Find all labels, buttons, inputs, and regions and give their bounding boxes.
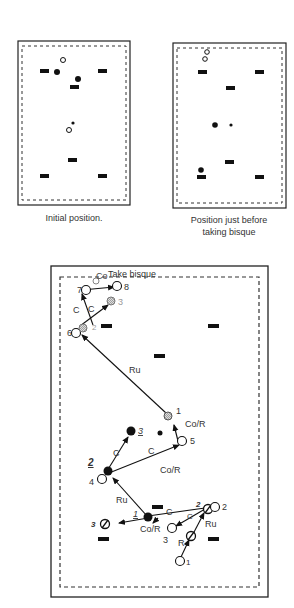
lawn-before-bisque (173, 43, 286, 208)
peg (158, 431, 163, 436)
ball-black (54, 69, 60, 75)
caption-initial-position: Initial position. (14, 213, 134, 224)
ball-number: 5 (190, 436, 195, 446)
turn-number: 2 (195, 500, 201, 509)
ball-black (144, 513, 153, 522)
turn-number: 2 (92, 323, 97, 332)
ball-hatched (79, 324, 87, 332)
ball-number: 7 (77, 285, 82, 295)
caption-before-bisque-line1: Position just before (168, 215, 290, 226)
ball-position-7 (82, 286, 91, 295)
stroke-label: C (187, 512, 193, 521)
hoop (197, 175, 206, 179)
turn-number: 1 (133, 509, 138, 519)
hoop (98, 69, 107, 73)
hoop (198, 70, 207, 74)
peg (229, 123, 232, 126)
stroke-label: Ru (205, 519, 217, 529)
ball-number: 3 (163, 535, 168, 545)
hoop (225, 160, 234, 164)
ball-position-2 (211, 503, 220, 512)
caption-before-bisque-line2: taking bisque (168, 227, 290, 238)
stroke-arrow (153, 518, 158, 523)
stroke-label: R (178, 538, 185, 548)
lawn-initial-position (18, 41, 130, 205)
hoop (255, 175, 264, 179)
ball-white (61, 58, 66, 63)
stroke-label: Ru (116, 495, 128, 505)
hoop (152, 505, 163, 509)
ball-number: 6 (67, 328, 72, 338)
hoop (70, 85, 79, 89)
turn-number: 3 (138, 426, 143, 436)
label-take-bisque: Take bisque (108, 269, 156, 279)
stroke-label: C (148, 446, 155, 456)
ball-hatched (164, 412, 172, 420)
ball-position-8 (113, 282, 122, 291)
hoop (208, 537, 219, 541)
hoop (255, 70, 264, 74)
stroke-label: C (73, 305, 80, 315)
ball-position-1 (176, 557, 185, 566)
turn-number: 2 (87, 457, 94, 468)
stroke-label: C (113, 448, 120, 458)
hoop (208, 324, 219, 328)
stroke-label: C (88, 304, 95, 314)
ball-number: 8 (124, 282, 129, 292)
ball-number: 1 (186, 558, 191, 567)
ball-position-4 (98, 475, 107, 484)
stroke-arrow (174, 425, 178, 441)
turn-number: 1 (176, 406, 181, 416)
ball-black (198, 167, 204, 173)
label-co: Co (96, 271, 108, 281)
stroke-label: Ru (129, 365, 141, 375)
ball-black (127, 427, 136, 436)
hoop (101, 324, 112, 328)
hoop (68, 158, 77, 162)
croquet-diagrams: Co Take bisque 8 7 6 3 2 C C Ru 1 Co/R 5… (0, 0, 294, 608)
stroke-label: Co/R (140, 524, 161, 534)
peg (71, 121, 74, 124)
lawn-break-diagram: Co Take bisque 8 7 6 3 2 C C Ru 1 Co/R 5… (51, 266, 268, 597)
hoop (154, 354, 165, 358)
turn-number: 3 (91, 520, 96, 529)
ball-white (67, 128, 72, 133)
ball-hatched (107, 297, 115, 305)
stroke-arrow (193, 513, 204, 534)
ball-white (205, 50, 210, 55)
ball-black (75, 76, 81, 82)
stroke-label: Co/R (185, 419, 206, 429)
ball-position-3 (168, 524, 177, 533)
ball-white (203, 57, 208, 62)
hoop (40, 174, 49, 178)
ball-position-5 (178, 437, 187, 446)
stroke-line (148, 508, 205, 516)
hoop (40, 69, 49, 73)
ball-number: 4 (89, 477, 94, 487)
hoop (226, 86, 235, 90)
stroke-label: C (166, 507, 173, 517)
ball-number: 2 (222, 502, 227, 512)
turn-number: 3 (118, 297, 123, 307)
stroke-label: Co/R (160, 465, 181, 475)
ball-black (212, 122, 218, 128)
ball-black (104, 467, 113, 476)
hoop (98, 174, 107, 178)
stroke-arrow (82, 335, 166, 413)
hoop (98, 537, 109, 541)
